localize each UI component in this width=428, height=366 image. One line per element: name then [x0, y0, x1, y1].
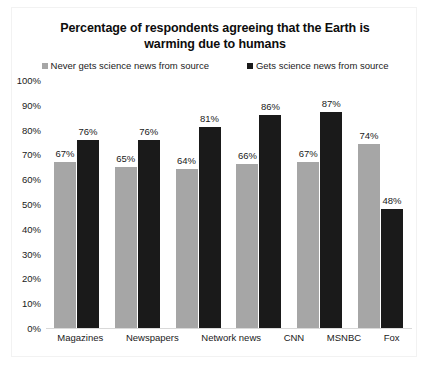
y-axis: 100% 90% 80% 70% 60% 50% 40% 30% 20% 10%…: [12, 80, 46, 328]
bar-never-gets-science-news[interactable]: [358, 144, 380, 328]
legend-swatch-icon-black: [247, 63, 253, 69]
chart-container: Percentage of respondents agreeing that …: [11, 7, 417, 357]
x-axis-label-newspapers: Newspapers: [126, 332, 179, 343]
bar-never-gets-science-news[interactable]: [297, 162, 319, 328]
bar-group-fox: 74% 48%: [358, 80, 403, 328]
bar-gets-science-news[interactable]: [199, 127, 221, 328]
bar-gets-science-news[interactable]: [259, 115, 281, 328]
y-axis-tick: 20%: [22, 273, 41, 284]
bar-never-gets-science-news[interactable]: [54, 162, 76, 328]
x-axis-label-cnn: CNN: [284, 332, 305, 343]
bar-value-label: 86%: [261, 101, 280, 113]
legend-swatch-icon-gray: [42, 63, 48, 69]
bar-wrap: 74%: [358, 80, 380, 328]
x-axis-label-fox: Fox: [384, 332, 400, 343]
bar-value-label: 67%: [299, 148, 318, 160]
chart-title: Percentage of respondents agreeing that …: [32, 20, 398, 52]
bar-group-msnbc: 67% 87%: [297, 80, 342, 328]
y-axis-tick: 40%: [22, 223, 41, 234]
bar-wrap: 86%: [259, 80, 281, 328]
bar-value-label: 76%: [139, 126, 158, 138]
bar-value-label: 76%: [78, 126, 97, 138]
bar-group-magazines: 67% 76%: [54, 80, 99, 328]
bar-never-gets-science-news[interactable]: [176, 169, 198, 328]
x-axis: Magazines Newspapers Network news CNN MS…: [46, 332, 411, 343]
y-axis-tick: 70%: [22, 149, 41, 160]
bar-group-newspapers: 65% 76%: [115, 80, 160, 328]
bar-value-label: 87%: [322, 98, 341, 110]
legend-label-never-gets-science-news: Never gets science news from source: [51, 60, 209, 71]
y-axis-tick: 90%: [22, 99, 41, 110]
bar-wrap: 76%: [77, 80, 99, 328]
y-axis-tick: 0%: [27, 323, 41, 334]
bar-gets-science-news[interactable]: [138, 140, 160, 328]
bar-wrap: 67%: [54, 80, 76, 328]
x-axis-label-msnbc: MSNBC: [327, 332, 361, 343]
bar-group-cnn: 66% 86%: [236, 80, 281, 328]
bar-never-gets-science-news[interactable]: [115, 167, 137, 328]
x-axis-label-network-news: Network news: [201, 332, 261, 343]
bar-wrap: 66%: [236, 80, 258, 328]
bar-gets-science-news[interactable]: [381, 209, 403, 328]
bar-value-label: 48%: [383, 195, 402, 207]
legend-item-gets-science-news: Gets science news from source: [247, 60, 389, 71]
bar-value-label: 74%: [360, 130, 379, 142]
bar-wrap: 81%: [199, 80, 221, 328]
bar-never-gets-science-news[interactable]: [236, 164, 258, 328]
bar-groups: 67% 76% 65% 76% 64% 81%: [46, 80, 411, 328]
bar-wrap: 67%: [297, 80, 319, 328]
chart-title-line-1: Percentage of respondents agreeing that …: [60, 21, 369, 35]
bar-value-label: 66%: [238, 150, 257, 162]
bar-wrap: 87%: [320, 80, 342, 328]
bar-value-label: 67%: [55, 148, 74, 160]
legend-item-never-gets-science-news: Never gets science news from source: [42, 60, 209, 71]
chart-title-line-2: warming due to humans: [144, 37, 286, 51]
legend-label-gets-science-news: Gets science news from source: [256, 60, 389, 71]
y-axis-tick: 50%: [22, 199, 41, 210]
bar-value-label: 64%: [177, 155, 196, 167]
bar-group-network-news: 64% 81%: [176, 80, 221, 328]
y-axis-tick: 30%: [22, 248, 41, 259]
bar-gets-science-news[interactable]: [77, 140, 99, 328]
x-axis-label-magazines: Magazines: [57, 332, 103, 343]
bar-wrap: 48%: [381, 80, 403, 328]
bar-wrap: 76%: [138, 80, 160, 328]
bar-value-label: 81%: [200, 113, 219, 125]
bar-gets-science-news[interactable]: [320, 112, 342, 328]
chart-legend: Never gets science news from source Gets…: [12, 60, 418, 71]
y-axis-tick: 80%: [22, 124, 41, 135]
bar-value-label: 65%: [116, 153, 135, 165]
y-axis-tick: 60%: [22, 174, 41, 185]
bar-wrap: 65%: [115, 80, 137, 328]
x-axis-baseline: [46, 328, 412, 329]
y-axis-tick: 10%: [22, 298, 41, 309]
bar-wrap: 64%: [176, 80, 198, 328]
y-axis-tick: 100%: [17, 75, 41, 86]
